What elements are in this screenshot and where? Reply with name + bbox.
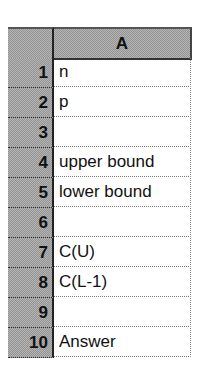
row-header-6[interactable]: 6 (8, 208, 54, 238)
table-row: 7 C(U) (8, 238, 192, 268)
row-number: 5 (12, 183, 52, 203)
row-header-1[interactable]: 1 (8, 58, 54, 88)
row-number: 10 (12, 333, 52, 353)
table-row: 3 (8, 118, 192, 148)
row-header-9[interactable]: 9 (8, 298, 54, 328)
row-header-10[interactable]: 10 (8, 328, 54, 358)
cell-a2[interactable]: p (54, 88, 191, 117)
row-header-2[interactable]: 2 (8, 88, 54, 118)
table-row: 10 Answer (8, 328, 192, 358)
cell-a8[interactable]: C(L-1) (54, 268, 191, 297)
column-header-row: A (8, 27, 192, 58)
select-all-corner[interactable] (8, 27, 54, 60)
table-row: 9 (8, 298, 192, 328)
spreadsheet-grid: A 1 n 2 p 3 4 upper bound 5 lower bound … (8, 27, 192, 358)
row-header-8[interactable]: 8 (8, 268, 54, 298)
cell-a9[interactable] (54, 298, 191, 327)
row-number: 2 (12, 93, 52, 113)
cell-a7[interactable]: C(U) (54, 238, 191, 267)
row-number: 8 (12, 273, 52, 293)
table-row: 6 (8, 208, 192, 238)
row-number: 1 (12, 63, 52, 83)
table-row: 1 n (8, 58, 192, 88)
row-header-5[interactable]: 5 (8, 178, 54, 208)
cell-a10[interactable]: Answer (54, 328, 191, 357)
cell-a1[interactable]: n (54, 58, 191, 87)
row-header-3[interactable]: 3 (8, 118, 54, 148)
row-number: 4 (12, 153, 52, 173)
row-header-4[interactable]: 4 (8, 148, 54, 178)
cell-a3[interactable] (54, 118, 191, 147)
cell-a5[interactable]: lower bound (54, 178, 191, 207)
row-number: 3 (12, 123, 52, 143)
row-number: 7 (12, 243, 52, 263)
table-row: 4 upper bound (8, 148, 192, 178)
table-row: 8 C(L-1) (8, 268, 192, 298)
row-number: 9 (12, 303, 52, 323)
row-header-7[interactable]: 7 (8, 238, 54, 268)
cell-a6[interactable] (54, 208, 191, 237)
cell-a4[interactable]: upper bound (54, 148, 191, 177)
column-header-a[interactable]: A (54, 27, 192, 60)
table-row: 5 lower bound (8, 178, 192, 208)
row-number: 6 (12, 213, 52, 233)
table-row: 2 p (8, 88, 192, 118)
